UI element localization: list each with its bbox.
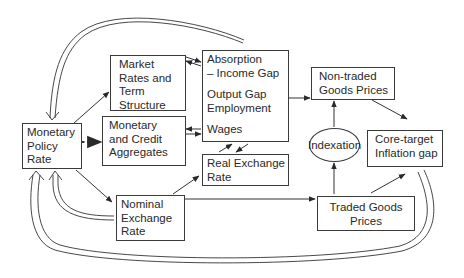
node-label: Prices [322, 215, 410, 229]
node-indexation: Indexation [309, 128, 360, 162]
node-absorption-output-gap: Absorption – Income Gap Output Gap Emplo… [202, 50, 289, 142]
node-label: Goods Prices [319, 84, 390, 98]
node-label: Wages [207, 123, 284, 137]
node-label: Rates and [119, 72, 181, 86]
node-label: Market [119, 58, 181, 72]
node-traded-goods-prices: Traded Goods Prices [317, 196, 415, 231]
node-label: Rate [207, 171, 284, 185]
node-label: Rate [27, 153, 77, 167]
node-label: Absorption [207, 53, 284, 67]
node-label: Monetary [27, 126, 77, 140]
node-nominal-exchange-rate: Nominal Exchange Rate [116, 195, 185, 241]
node-label: Monetary [109, 119, 181, 133]
node-label: Inflation gap [375, 147, 438, 161]
node-label: Exchange [121, 212, 180, 226]
node-core-target-inflation-gap: Core-target Inflation gap [367, 130, 443, 167]
node-label: Traded Goods [322, 201, 410, 215]
node-label: and Credit [109, 133, 181, 147]
node-label: Core-target [375, 133, 438, 147]
node-label: Structure [119, 99, 181, 113]
node-label: Term [119, 85, 181, 99]
node-label: Indexation [308, 139, 361, 151]
node-label: Output Gap [207, 88, 284, 102]
node-label: Policy [27, 140, 77, 154]
node-label: Non-traded [319, 70, 390, 84]
node-real-exchange-rate: Real Exchange Rate [202, 154, 289, 186]
node-label: – Income Gap [207, 67, 284, 81]
node-label: Aggregates [109, 146, 181, 160]
node-monetary-credit-aggregates: Monetary and Credit Aggregates [102, 116, 186, 166]
arrow-policy-to-nominal-fx [76, 170, 112, 202]
node-label: Employment [207, 102, 284, 116]
node-market-rates: Market Rates and Term Structure [110, 55, 186, 111]
node-monetary-policy-rate: Monetary Policy Rate [22, 123, 82, 169]
node-non-traded-goods-prices: Non-traded Goods Prices [311, 67, 395, 100]
node-label: Real Exchange [207, 157, 284, 171]
node-label: Rate [121, 225, 180, 239]
node-label: Nominal [121, 198, 180, 212]
